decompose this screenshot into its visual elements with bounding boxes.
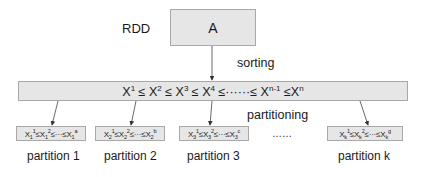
partition-3-sequence: X31≤X32≤···≤X3c: [188, 128, 240, 140]
rdd-node-label: A: [208, 20, 217, 36]
partition-k-label: partition k: [338, 149, 390, 163]
partition-1-label: partition 1: [27, 149, 80, 163]
partition-1-box: X11≤X12≤···≤X1a: [16, 126, 86, 141]
partition-k-box: Xk1≤Xk2≤···≤Xkg: [327, 126, 403, 141]
partition-2-sequence: X21≤X22≤···≤X2b: [104, 128, 157, 140]
partition-2-box: X21≤X22≤···≤X2b: [95, 126, 165, 141]
partition-3-label: partition 3: [187, 149, 240, 163]
rdd-node-a: A: [170, 9, 256, 46]
partition-1-arrow: [52, 101, 58, 125]
ellipsis: ……: [272, 128, 292, 139]
partition-k-sequence: Xk1≤Xk2≤···≤Xkg: [339, 128, 391, 140]
sorted-sequence-box: X1 ≤ X2 ≤ X3 ≤ X4 ≤······≤ Xn-1 ≤Xn: [18, 81, 408, 101]
partition-2-label: partition 2: [104, 149, 157, 163]
sorting-label: sorting: [237, 56, 275, 70]
partition-3-box: X31≤X32≤···≤X3c: [179, 126, 249, 141]
sorted-sequence: X1 ≤ X2 ≤ X3 ≤ X4 ≤······≤ Xn-1 ≤Xn: [122, 84, 303, 99]
partition-2-arrow: [131, 101, 136, 125]
partition-3-arrow: [210, 101, 212, 125]
partition-k-arrow: [360, 101, 368, 125]
partition-1-sequence: X11≤X12≤···≤X1a: [25, 128, 78, 140]
rdd-label: RDD: [122, 21, 150, 36]
partitioning-label: partitioning: [247, 108, 308, 122]
